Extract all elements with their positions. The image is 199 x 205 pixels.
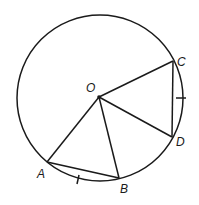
label-c: C <box>177 55 186 69</box>
label-d: D <box>176 135 185 149</box>
diagram-svg: O C D A B <box>0 0 199 205</box>
label-b: B <box>120 182 128 196</box>
radius-od <box>99 97 172 137</box>
radius-oc <box>99 61 173 97</box>
center-point <box>97 95 101 99</box>
circle-diagram: O C D A B <box>0 0 199 205</box>
label-o: O <box>86 81 95 95</box>
radius-ob <box>99 97 119 178</box>
radius-oa <box>47 97 99 162</box>
chord-cd <box>172 61 173 137</box>
tick-mark-arc-ab <box>77 175 79 184</box>
label-a: A <box>36 167 45 181</box>
